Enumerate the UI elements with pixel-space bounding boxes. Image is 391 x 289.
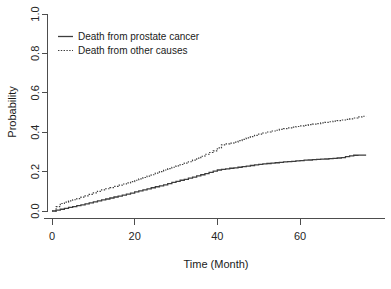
y-tick-label: 0.6: [29, 85, 41, 100]
x-axis-title: Time (Month): [184, 258, 249, 270]
y-tick-label: 0.4: [29, 125, 41, 140]
x-axis-ticks: 0204060: [49, 219, 306, 243]
series-line-dotted: [52, 116, 366, 211]
y-tick-label: 0.8: [29, 46, 41, 61]
x-tick-label: 40: [211, 230, 223, 242]
series-group: [52, 116, 366, 211]
legend-label-prostate-cancer: Death from prostate cancer: [78, 31, 200, 42]
x-tick-label: 0: [49, 230, 55, 242]
y-axis-title: Probability: [6, 86, 18, 138]
x-tick-label: 20: [129, 230, 141, 242]
x-tick-label: 60: [294, 230, 306, 242]
y-tick-label: 0.0: [29, 203, 41, 218]
legend-label-other-causes: Death from other causes: [78, 45, 188, 56]
series-line-solid: [52, 155, 366, 211]
chart-canvas: 0.00.20.40.60.81.0 0204060 Probability T…: [0, 0, 391, 289]
y-tick-label: 0.2: [29, 164, 41, 179]
chart-legend: Death from prostate cancer Death from ot…: [58, 31, 200, 56]
y-axis-ticks: 0.00.20.40.60.81.0: [29, 6, 48, 218]
y-tick-label: 1.0: [29, 6, 41, 21]
survival-probability-chart: 0.00.20.40.60.81.0 0204060 Probability T…: [0, 0, 391, 289]
